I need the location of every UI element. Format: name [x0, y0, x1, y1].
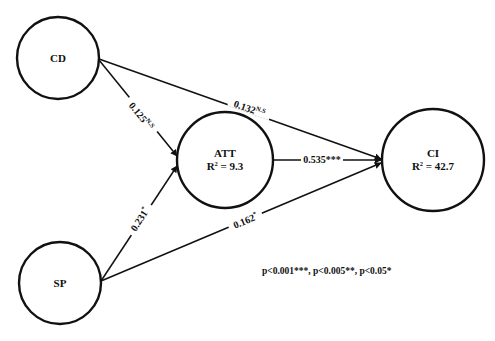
- edge-label-att-ci: 0.535***: [301, 153, 343, 165]
- node-sp: SP: [19, 242, 101, 324]
- node-ci: CI R2 = 42.7: [382, 109, 484, 211]
- svg-text:0.535***: 0.535***: [303, 154, 341, 165]
- edge-label-cd-att: 0.125N.S: [123, 95, 160, 137]
- path-model-diagram: 0.125N.S 0.132N.S 0.231* 0.162* 0.535***…: [0, 0, 495, 341]
- edge-label-sp-att: 0.231*: [124, 201, 154, 238]
- node-att-label: ATT: [214, 147, 236, 159]
- node-cd-label: CD: [50, 52, 66, 64]
- significance-legend: p<0.001***, p<0.005**, p<0.05*: [262, 266, 392, 276]
- node-cd: CD: [17, 17, 99, 99]
- svg-text:0.162*: 0.162*: [231, 210, 259, 231]
- node-sp-label: SP: [54, 277, 67, 289]
- node-ci-r2: R2 = 42.7: [412, 160, 455, 172]
- edge-label-sp-ci: 0.162*: [226, 208, 264, 233]
- node-att-r2: R2 = 9.3: [207, 160, 244, 172]
- node-att: ATT R2 = 9.3: [177, 112, 273, 208]
- node-ci-label: CI: [427, 147, 439, 159]
- svg-text:0.125N.S: 0.125N.S: [127, 99, 157, 132]
